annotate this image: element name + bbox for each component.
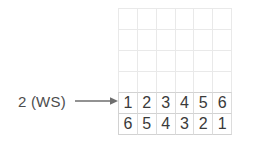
grid-cell-empty <box>213 72 232 93</box>
grid-cell-value: 1 <box>213 114 232 135</box>
number-grid: 123456654321 <box>118 8 232 135</box>
grid-cell-empty <box>157 51 176 72</box>
grid-cell-value: 3 <box>176 114 195 135</box>
grid-cell-empty <box>213 30 232 51</box>
grid-cell-value: 6 <box>118 114 138 135</box>
grid-cell-empty <box>194 51 213 72</box>
grid-cell-empty <box>138 9 157 30</box>
grid-cell-empty <box>194 30 213 51</box>
grid-cell-empty <box>157 9 176 30</box>
grid-cell-empty <box>194 9 213 30</box>
grid-cell-empty <box>176 72 195 93</box>
grid-cell-value: 3 <box>157 92 176 114</box>
grid-cell-empty <box>119 9 138 30</box>
grid-cell-empty <box>119 51 138 72</box>
grid-cell-empty <box>213 9 232 30</box>
grid-cell-empty <box>119 30 138 51</box>
grid-cell-value: 4 <box>176 92 195 114</box>
grid-cell-value: 5 <box>194 92 213 114</box>
grid-cell-empty <box>138 72 157 93</box>
arrow-right-icon <box>75 93 119 111</box>
row-annotation: 2 (WS) <box>18 92 119 112</box>
grid-cell-empty <box>119 72 138 93</box>
grid-cell-empty <box>138 30 157 51</box>
grid-cell-value: 4 <box>157 114 176 135</box>
annotation-label: 2 (WS) <box>18 92 66 112</box>
grid-cell-value: 5 <box>138 114 157 135</box>
grid-cell-empty <box>138 51 157 72</box>
grid-cell-value: 2 <box>194 114 213 135</box>
grid-cell-empty <box>176 30 195 51</box>
grid-cell-empty <box>176 9 195 30</box>
grid-cell-empty <box>213 51 232 72</box>
grid-cell-empty <box>194 72 213 93</box>
grid-cell-value: 2 <box>138 92 157 114</box>
grid-cell-value: 6 <box>213 92 232 114</box>
grid-cell-empty <box>157 72 176 93</box>
grid-cell-empty <box>176 51 195 72</box>
grid-cell-value: 1 <box>118 92 138 114</box>
diagram-canvas: 2 (WS) 123456654321 <box>0 0 262 146</box>
grid-cell-empty <box>157 30 176 51</box>
